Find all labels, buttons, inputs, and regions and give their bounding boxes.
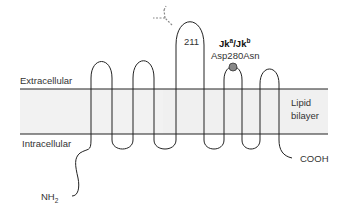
jk-b-sup: b bbox=[246, 37, 250, 44]
n-terminus-label: NH2 bbox=[41, 192, 58, 204]
intracellular-label: Intracellular bbox=[22, 139, 71, 149]
kidd-antigen-label: Jka/Jkb bbox=[219, 38, 250, 49]
mutation-label: Asp280Asn bbox=[211, 51, 260, 61]
bilayer-label: bilayer bbox=[291, 111, 319, 121]
jk-a-base: Jk bbox=[219, 38, 230, 49]
c-terminus-label: COOH bbox=[300, 154, 329, 164]
lipid-label: Lipid bbox=[291, 98, 311, 108]
glycosylation-glycan-icon bbox=[153, 6, 172, 25]
jk-b-base: Jk bbox=[236, 38, 247, 49]
urea-transporter-topology-diagram: Extracellular Intracellular Lipid bilaye… bbox=[0, 0, 347, 218]
nh-subscript: 2 bbox=[55, 197, 59, 204]
extracellular-label: Extracellular bbox=[20, 76, 72, 86]
glycosylation-site-label: 211 bbox=[184, 37, 199, 47]
polymorphism-site-dot-icon bbox=[229, 63, 237, 71]
membrane-topology-svg bbox=[0, 0, 347, 218]
nh-text: NH bbox=[41, 191, 55, 202]
